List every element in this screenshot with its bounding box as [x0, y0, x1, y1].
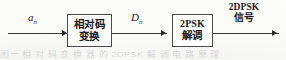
label-output-subscript: n	[34, 18, 38, 26]
label-mid-symbol: D	[131, 11, 139, 23]
page-bleed-through-text: 图一 相 对 码 变 换 器 的 2DPSK 解 调 电 路 原 理	[0, 48, 286, 60]
block-psk-demodulator[interactable]: 2PSK 解调	[172, 14, 213, 47]
arrowhead-input-right-edge	[272, 30, 277, 36]
label-input-line2: 信号	[220, 12, 268, 23]
block-psk-demodulator-line2: 解调	[182, 30, 202, 41]
block-relative-code-converter[interactable]: 相对码 变换	[67, 14, 112, 47]
block-diagram-figure: an 相对码 变换 Dn 2PSK 解调 2DPSK 信号 图一 相 对 码 变…	[0, 0, 286, 60]
label-input-signal-2dpsk: 2DPSK 信号	[220, 2, 268, 23]
label-intermediate-signal-dn: Dn	[131, 11, 142, 26]
block-relative-code-converter-line1: 相对码	[74, 19, 105, 30]
wire-input-to-demodulator	[213, 33, 279, 34]
label-mid-subscript: n	[139, 18, 143, 26]
block-relative-code-converter-line2: 变换	[79, 31, 99, 42]
arrowhead-into-converter-from-demodulator	[161, 30, 166, 36]
label-input-line1: 2DPSK	[220, 2, 268, 12]
label-output-signal-an: an	[28, 11, 37, 26]
wire-demodulator-to-converter	[112, 33, 167, 34]
